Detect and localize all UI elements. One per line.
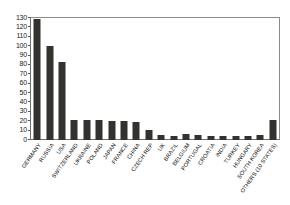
y-axis-tick-mark xyxy=(28,130,30,131)
y-axis-tick-label: 70 xyxy=(20,69,27,78)
x-axis-label-slot: BRAZIL xyxy=(167,141,179,205)
bar-slot xyxy=(254,18,266,140)
y-axis-tick-mark xyxy=(28,73,30,74)
x-axis-label-slot: JAPAN xyxy=(105,141,117,205)
y-axis-tick-label: 120 xyxy=(16,22,27,31)
bar-slot xyxy=(180,18,192,140)
x-axis-label-slot: UK xyxy=(155,141,167,205)
bar[interactable] xyxy=(133,122,140,140)
y-axis-tick-label: 80 xyxy=(20,59,27,68)
y-axis-tick-mark xyxy=(28,139,30,140)
bar[interactable] xyxy=(120,121,127,140)
bar[interactable] xyxy=(220,136,227,140)
bar[interactable] xyxy=(182,134,189,140)
bar-slot xyxy=(192,18,204,140)
bar[interactable] xyxy=(232,136,239,140)
y-axis-tick-mark xyxy=(28,101,30,102)
bar-slot xyxy=(130,18,142,140)
bar-slot xyxy=(93,18,105,140)
y-axis-tick-label: 40 xyxy=(20,97,27,106)
x-axis-label-slot: OTHERS (10 STATES) xyxy=(267,141,279,205)
bar[interactable] xyxy=(269,120,276,140)
bar[interactable] xyxy=(145,130,152,140)
bar[interactable] xyxy=(71,120,78,140)
y-axis-tick-mark xyxy=(28,36,30,37)
bar[interactable] xyxy=(108,121,115,140)
x-axis-tick-label: UK xyxy=(157,142,166,152)
y-axis-tick-mark xyxy=(28,45,30,46)
y-axis-tick-label: 20 xyxy=(20,116,27,125)
y-axis: 1301201101009080706050403020100 xyxy=(0,12,30,145)
bar-slot xyxy=(118,18,130,140)
y-axis-tick-label: 110 xyxy=(16,31,27,40)
x-axis-label-slot: UKRAINE xyxy=(81,141,93,205)
y-axis-tick-mark xyxy=(28,120,30,121)
bar[interactable] xyxy=(195,135,202,140)
bar-slot xyxy=(217,18,229,140)
y-axis-tick-mark xyxy=(28,83,30,84)
x-axis-labels: GERMANYRUSSIAUSASWITZERLANDUKRAINEPOLAND… xyxy=(31,141,279,205)
bar-slot xyxy=(56,18,68,140)
x-axis-label-slot: CZECH REP xyxy=(143,141,155,205)
x-axis-label-slot: INDIA xyxy=(217,141,229,205)
x-axis-label-slot: GERMANY xyxy=(31,141,43,205)
bar[interactable] xyxy=(58,62,65,140)
bar-slot xyxy=(68,18,80,140)
bars-container xyxy=(31,18,279,140)
bar-chart: 1301201101009080706050403020100 GERMANYR… xyxy=(0,0,290,205)
x-axis-label-slot: SWITZERLAND xyxy=(68,141,80,205)
bar[interactable] xyxy=(244,136,251,140)
y-axis-tick-label: 10 xyxy=(20,125,27,134)
y-axis-tick-mark xyxy=(28,92,30,93)
bar[interactable] xyxy=(83,120,90,140)
y-axis-tick-mark xyxy=(28,111,30,112)
x-axis-label-slot: CHINA xyxy=(130,141,142,205)
y-axis-tick-label: 90 xyxy=(20,50,27,59)
y-axis-tick-label: 130 xyxy=(16,13,27,22)
bar[interactable] xyxy=(170,136,177,140)
y-axis-tick-label: 60 xyxy=(20,78,27,87)
bar-slot xyxy=(43,18,55,140)
y-axis-tick-mark xyxy=(28,55,30,56)
y-axis-tick-label: 100 xyxy=(16,41,27,50)
bar[interactable] xyxy=(34,19,41,140)
y-axis-tick-label: 30 xyxy=(20,106,27,115)
bar-slot xyxy=(31,18,43,140)
y-axis-tick-label: 0 xyxy=(23,135,27,144)
y-axis-tick-mark xyxy=(28,17,30,18)
y-axis-tick-mark xyxy=(28,26,30,27)
bar[interactable] xyxy=(46,46,53,140)
y-axis-tick-mark xyxy=(28,64,30,65)
bar-slot xyxy=(205,18,217,140)
bar[interactable] xyxy=(158,135,165,140)
x-axis-label-slot: POLAND xyxy=(93,141,105,205)
bar-slot xyxy=(81,18,93,140)
bar-slot xyxy=(229,18,241,140)
bar-slot xyxy=(167,18,179,140)
x-axis-label-slot: CROATIA xyxy=(205,141,217,205)
bar[interactable] xyxy=(96,120,103,140)
bar[interactable] xyxy=(207,136,214,140)
x-axis-label-slot: PORTUGAL xyxy=(192,141,204,205)
bar-slot xyxy=(105,18,117,140)
bar[interactable] xyxy=(257,135,264,140)
bar-slot xyxy=(267,18,279,140)
bar-slot xyxy=(155,18,167,140)
y-axis-tick-label: 50 xyxy=(20,88,27,97)
bar-slot xyxy=(242,18,254,140)
bar-slot xyxy=(143,18,155,140)
